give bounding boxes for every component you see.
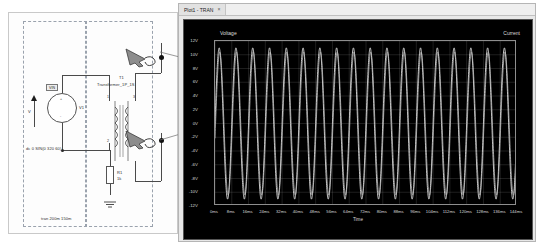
wire-to-primary-pin1 (109, 75, 110, 101)
x-tick-9: 72ms (360, 209, 370, 214)
y-tick-12: -12V (189, 203, 198, 208)
voltage-probe-cursor-icon[interactable] (123, 45, 157, 65)
y-tick-2: 8V (193, 65, 198, 70)
load-resistor-symbol[interactable] (106, 166, 114, 184)
source-terminal-plus: + (60, 97, 62, 101)
y-tick-8: -4V (191, 148, 198, 153)
x-tick-13: 104ms (426, 209, 439, 214)
y-tick-0: 12V (190, 38, 198, 43)
wire-secondary-bottom-h (135, 181, 161, 182)
schematic-editor-panel[interactable]: V VIN + - V1 dc 0 SIN(0 320 60) (8, 12, 178, 234)
close-icon[interactable]: × (217, 7, 220, 12)
x-tick-0: 0ms (210, 209, 218, 214)
source-ref-label: V1 (79, 105, 84, 110)
resistor-ref-label: R1 (117, 170, 122, 175)
y-tick-6: 0V (193, 120, 198, 125)
x-tick-3: 24ms (259, 209, 269, 214)
x-tick-5: 40ms (293, 209, 303, 214)
source-terminal-minus: - (60, 114, 61, 118)
tab-plot1-tran[interactable]: Plot1 - TRAN × (179, 4, 226, 15)
x-tick-14: 112ms (443, 209, 455, 214)
y-tick-4: 4V (193, 93, 198, 98)
y-tick-9: -6V (191, 161, 198, 166)
plot-axes (214, 40, 516, 205)
wire-secondary-bottom (135, 161, 136, 181)
plot-tab-bar[interactable]: Plot1 - TRAN × (179, 4, 535, 16)
x-tick-12: 96ms (410, 209, 420, 214)
probe-hand-arrow-icon (123, 45, 163, 69)
wire-secondary-top (135, 73, 136, 101)
net-marker-line (34, 101, 35, 127)
y-tick-5: 2V (193, 106, 198, 111)
x-tick-6: 48ms (310, 209, 320, 214)
resistor-value-label: 1k (117, 176, 121, 181)
wire-source-bottom (62, 123, 63, 150)
legend-voltage: Voltage (220, 30, 237, 36)
application-root: V VIN + - V1 dc 0 SIN(0 320 60) (0, 0, 539, 245)
x-tick-18: 144ms (510, 209, 523, 214)
x-tick-11: 88ms (393, 209, 403, 214)
source-spice-directive: dc 0 SIN(0 320 60) (26, 146, 61, 151)
ground-symbol (103, 195, 117, 203)
ground-icon (103, 201, 117, 209)
y-tick-1: 10V (190, 51, 198, 56)
x-tick-16: 128ms (476, 209, 489, 214)
current-probe-cursor-icon[interactable] (123, 127, 157, 147)
x-tick-1: 8ms (227, 209, 235, 214)
schematic-canvas[interactable]: V VIN + - V1 dc 0 SIN(0 320 60) (9, 13, 178, 234)
transformer-pin-1: 1 (107, 95, 109, 99)
y-tick-11: -10V (189, 189, 198, 194)
y-tick-10: -8V (191, 175, 198, 180)
wire-top-horizontal (62, 75, 109, 76)
current-probe-point[interactable] (159, 138, 164, 143)
transformer-ref-label: T1 (119, 75, 124, 80)
wire-source-top (62, 75, 63, 93)
source-badge[interactable]: VIN (46, 84, 58, 91)
wire-load-tap (75, 150, 110, 151)
y-tick-3: 6V (193, 79, 198, 84)
x-axis-title: Time (184, 217, 532, 222)
x-tick-17: 136ms (493, 209, 506, 214)
net-label-v: V (28, 109, 31, 114)
wire-resistor-to-gnd (110, 184, 111, 195)
waveform-traces (215, 41, 516, 205)
y-tick-7: -2V (191, 134, 198, 139)
simulation-directive: tran 200m 150m (41, 216, 72, 221)
plot-canvas[interactable]: Voltage Current 12V10V8V6V4V2V0V-2V-4V-6… (183, 19, 533, 240)
wire-to-resistor (110, 150, 111, 166)
x-tick-8: 64ms (343, 209, 353, 214)
schematic-divider-dashed (85, 21, 87, 227)
x-tick-4: 32ms (276, 209, 286, 214)
x-tick-15: 120ms (459, 209, 472, 214)
legend-current: Current (503, 30, 520, 36)
voltage-probe-point[interactable] (159, 55, 164, 60)
x-tick-10: 80ms (377, 209, 387, 214)
transformer-pin-2: 2 (107, 139, 109, 143)
probe-hand-arrow-icon-2 (123, 127, 163, 151)
plot-window[interactable]: Plot1 - TRAN × Voltage Current 12V10V8V6… (178, 3, 536, 242)
x-tick-2: 16ms (242, 209, 252, 214)
junction-node-primary (61, 149, 64, 152)
plot-tab-label: Plot1 - TRAN (184, 7, 213, 13)
x-tick-7: 56ms (326, 209, 336, 214)
wire-secondary-top-h (135, 73, 161, 74)
transformer-model-label: Transformer_1P_1S (97, 82, 135, 87)
